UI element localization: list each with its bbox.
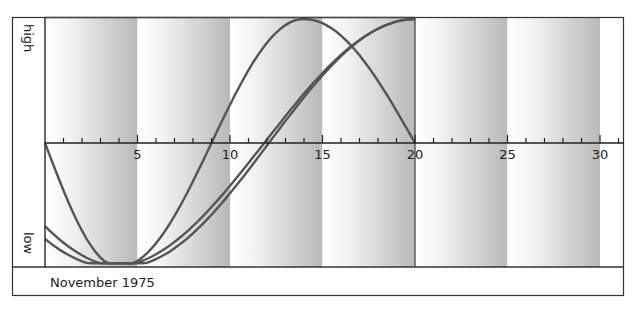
shaded-band [230, 17, 323, 267]
shaded-band [323, 17, 416, 267]
x-tick-label: 5 [133, 147, 141, 162]
shaded-band [45, 17, 138, 267]
x-tick-label: 15 [314, 147, 331, 162]
shaded-band [508, 17, 601, 267]
x-tick-label: 20 [407, 147, 424, 162]
x-tick-label: 25 [499, 147, 516, 162]
biorhythm-chart: 51015202530 high low November 1975 [0, 0, 639, 311]
y-label-low: low [21, 232, 36, 255]
shaded-band [138, 17, 231, 267]
shaded-band [415, 17, 508, 267]
x-tick-label: 10 [222, 147, 239, 162]
y-label-high: high [21, 24, 36, 52]
month-label: November 1975 [50, 275, 155, 290]
x-tick-label: 30 [592, 147, 609, 162]
